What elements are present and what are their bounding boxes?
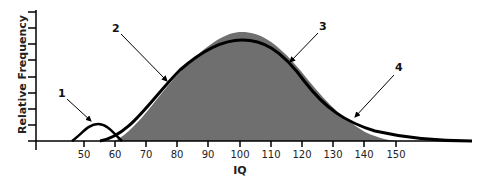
x-tick-label: 100: [225, 149, 255, 160]
y-axis-label: Relative Frequency: [16, 15, 29, 135]
x-tick-label: 70: [131, 149, 161, 160]
x-tick-label: 110: [256, 149, 286, 160]
arrow-4: [355, 75, 394, 117]
x-tick-label: 60: [100, 149, 130, 160]
callout-1: 1: [58, 87, 66, 100]
y-ticks: [28, 12, 36, 125]
x-tick-label: 80: [162, 149, 192, 160]
callout-2: 2: [112, 22, 120, 35]
x-axis-label: IQ: [230, 164, 250, 177]
x-tick-label: 90: [193, 149, 223, 160]
arrow-2: [121, 34, 167, 81]
x-tick-label: 130: [318, 149, 348, 160]
x-ticks: [84, 141, 396, 147]
callout-3: 3: [319, 20, 327, 33]
arrow-3: [290, 33, 318, 62]
x-tick-label: 120: [287, 149, 317, 160]
arrow-1: [67, 99, 91, 121]
x-tick-label: 150: [381, 149, 411, 160]
curve-1: [72, 124, 122, 141]
x-tick-label: 140: [349, 149, 379, 160]
callout-4: 4: [395, 61, 403, 74]
x-tick-label: 50: [69, 149, 99, 160]
